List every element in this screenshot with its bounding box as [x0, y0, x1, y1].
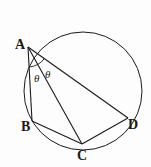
segment-AC	[28, 47, 82, 144]
point-label-B: B	[21, 119, 30, 134]
diagram-svg: θ θ A B C D	[0, 0, 151, 167]
angle-label-BAC: θ	[34, 72, 40, 84]
segment-BC	[32, 121, 82, 144]
angle-arc-CAD	[38, 59, 45, 65]
segment-AB	[28, 47, 32, 121]
point-label-C: C	[77, 148, 87, 163]
segment-AD	[28, 47, 128, 118]
segment-CD	[82, 118, 128, 144]
point-label-A: A	[15, 37, 26, 52]
geometry-diagram: θ θ A B C D	[0, 0, 151, 167]
angle-label-CAD: θ	[45, 68, 51, 80]
point-label-D: D	[128, 117, 138, 132]
circumcircle	[24, 32, 142, 150]
